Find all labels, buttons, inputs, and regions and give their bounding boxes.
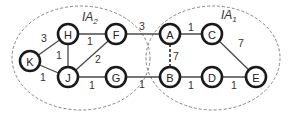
edge-weight-k-h: 3 — [41, 32, 47, 44]
edge-weight-h-j: 1 — [56, 49, 62, 61]
edge-weight-d-e: 1 — [231, 79, 237, 91]
edge-weight-a-c: 1 — [188, 21, 194, 33]
node-h: H — [58, 24, 78, 44]
node-label: G — [112, 72, 121, 84]
edge-weight-b-d: 1 — [188, 79, 194, 91]
node-e: E — [246, 67, 266, 87]
node-f: F — [106, 24, 126, 44]
node-b: B — [160, 67, 180, 87]
edge-weight-j-g: 1 — [89, 79, 95, 91]
region-label-ia1: IA1 — [221, 8, 237, 24]
node-label: C — [208, 29, 216, 41]
node-label: E — [252, 72, 259, 84]
node-label: J — [65, 72, 71, 84]
node-label: A — [166, 29, 174, 41]
edge-weight-h-f: 1 — [87, 35, 93, 47]
node-j: J — [58, 67, 78, 87]
node-k: K — [20, 51, 40, 71]
edge-weight-c-e: 7 — [238, 37, 244, 49]
region-ia1 — [146, 6, 280, 110]
node-a: A — [160, 24, 180, 44]
node-label: K — [26, 56, 34, 68]
region-label-ia2: IA2 — [82, 10, 98, 26]
edge-weight-g-b: 1 — [139, 78, 145, 90]
edge-weight-a-b: 7 — [173, 50, 179, 62]
edge-weight-k-j: 1 — [40, 71, 46, 83]
node-label: D — [208, 72, 216, 84]
node-c: C — [202, 24, 222, 44]
node-d: D — [202, 67, 222, 87]
regions: IA2IA1 — [12, 6, 280, 110]
node-label: F — [113, 29, 120, 41]
edge-weight-f-a: 3 — [139, 20, 145, 32]
edge-weight-j-f: 2 — [95, 53, 101, 65]
node-label: H — [64, 29, 72, 41]
node-label: B — [166, 72, 173, 84]
node-g: G — [106, 67, 126, 87]
graph-diagram: IA2IA1 3111213117711 KHJFGABCDE — [0, 0, 293, 115]
